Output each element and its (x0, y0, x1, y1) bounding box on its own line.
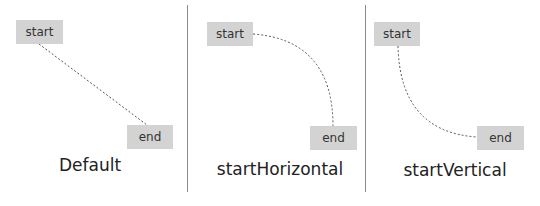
caption-default: Default (30, 155, 150, 175)
connector-default (39, 44, 147, 125)
end-node-default[interactable]: end (127, 125, 173, 149)
start-node-start-vertical[interactable]: start (374, 22, 420, 46)
connector-start-horizontal (253, 34, 333, 126)
caption-start-horizontal: startHorizontal (205, 159, 355, 179)
start-node-start-horizontal[interactable]: start (207, 22, 253, 46)
panel-divider (365, 5, 366, 192)
panel-divider (187, 5, 188, 192)
start-node-default[interactable]: start (16, 20, 63, 44)
connector-start-vertical (398, 46, 477, 137)
end-node-start-vertical[interactable]: end (477, 126, 524, 150)
caption-start-vertical: startVertical (385, 160, 525, 180)
end-node-start-horizontal[interactable]: end (310, 126, 357, 150)
